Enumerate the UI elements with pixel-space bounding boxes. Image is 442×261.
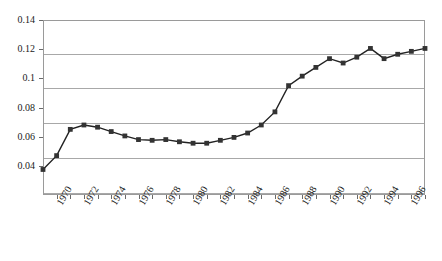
data-point-marker (245, 131, 250, 136)
data-point-marker (300, 74, 305, 79)
data-point-marker (150, 138, 155, 143)
data-point-marker (423, 46, 428, 51)
data-point-marker (259, 123, 264, 128)
data-point-marker (68, 127, 73, 132)
data-point-marker (382, 56, 387, 61)
data-point-marker (313, 65, 318, 70)
chart-container: 0.040.060.080.10.120.14 1970197219741976… (0, 0, 442, 261)
data-series-line (0, 0, 442, 261)
data-point-marker (41, 167, 46, 172)
data-point-marker (409, 49, 414, 54)
data-point-marker (232, 135, 237, 140)
data-point-marker (273, 109, 278, 114)
data-point-marker (122, 134, 127, 139)
data-point-marker (286, 83, 291, 88)
data-point-marker (218, 138, 223, 143)
data-point-marker (95, 125, 100, 130)
data-point-marker (177, 139, 182, 144)
data-point-marker (341, 61, 346, 66)
data-point-marker (368, 46, 373, 51)
data-point-marker (327, 56, 332, 61)
data-point-marker (191, 141, 196, 146)
data-point-marker (163, 137, 168, 142)
data-point-marker (54, 153, 59, 158)
series-line (43, 48, 425, 169)
data-point-marker (204, 141, 209, 146)
data-point-marker (395, 52, 400, 57)
data-point-marker (354, 55, 359, 60)
data-point-marker (109, 129, 114, 134)
data-point-marker (82, 123, 87, 128)
data-point-marker (136, 137, 141, 142)
